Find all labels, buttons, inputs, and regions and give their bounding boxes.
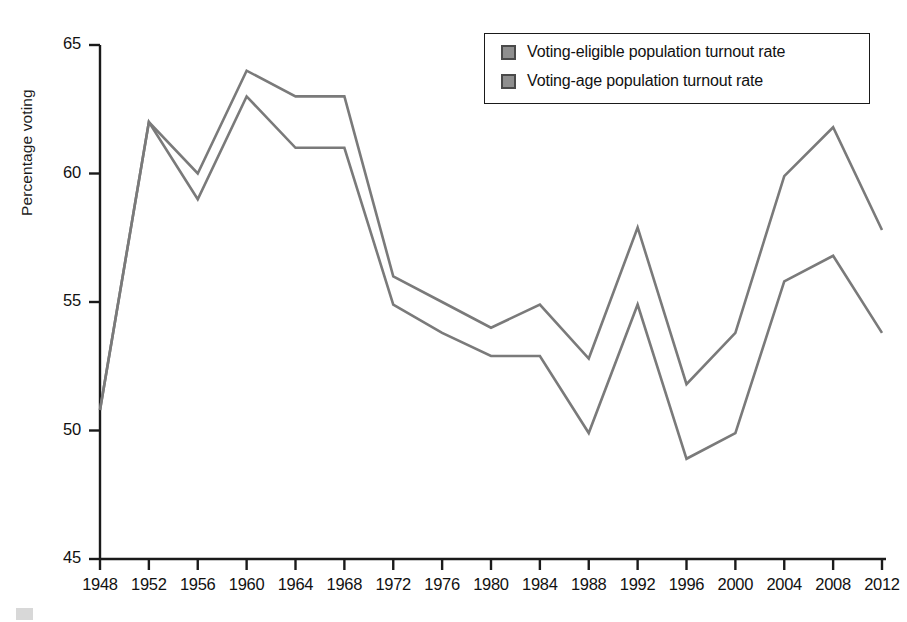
y-axis-tick-label: 60	[47, 163, 81, 182]
legend-item-label: Voting-age population turnout rate	[527, 72, 763, 90]
x-axis-tick-label: 1964	[269, 575, 323, 594]
x-axis-tick-label: 1984	[513, 575, 567, 594]
y-axis-tick-label: 55	[47, 291, 81, 310]
x-axis-tick-label: 1996	[660, 575, 714, 594]
y-axis-title: Percentage voting	[18, 0, 36, 216]
x-axis-tick-label: 1948	[73, 575, 127, 594]
y-axis-tick-label: 45	[47, 548, 81, 567]
x-axis-tick-label: 1988	[562, 575, 616, 594]
chart-legend: Voting-eligible population turnout rate …	[484, 33, 870, 104]
x-axis-tick-label: 2012	[855, 575, 907, 594]
x-axis-tick-label: 2000	[708, 575, 762, 594]
x-axis-tick-label: 1952	[122, 575, 176, 594]
x-axis-tick-label: 1972	[366, 575, 420, 594]
x-axis-tick-label: 1992	[611, 575, 665, 594]
x-axis-tick-label: 1980	[464, 575, 518, 594]
y-axis-tick-label: 65	[47, 34, 81, 53]
legend-swatch-icon	[501, 45, 516, 60]
x-axis-tick-label: 1956	[171, 575, 225, 594]
axes	[89, 45, 886, 570]
x-axis-tick-label: 2008	[806, 575, 860, 594]
series-line-voting-eligible	[100, 71, 882, 410]
legend-item-voting-age: Voting-age population turnout rate	[501, 72, 763, 90]
x-axis-tick-label: 1976	[415, 575, 469, 594]
data-series	[100, 71, 882, 459]
y-axis-tick-label: 50	[47, 420, 81, 439]
x-axis-tick-label: 2004	[757, 575, 811, 594]
legend-item-voting-eligible: Voting-eligible population turnout rate	[501, 43, 785, 61]
turnout-line-chart: Percentage voting 4550556065 19481952195…	[0, 0, 907, 622]
x-axis-tick-label: 1968	[317, 575, 371, 594]
legend-swatch-icon	[501, 74, 516, 89]
page-corner-mark	[16, 608, 33, 620]
legend-item-label: Voting-eligible population turnout rate	[527, 43, 785, 61]
x-axis-tick-label: 1960	[220, 575, 274, 594]
series-line-voting-age	[100, 96, 882, 458]
